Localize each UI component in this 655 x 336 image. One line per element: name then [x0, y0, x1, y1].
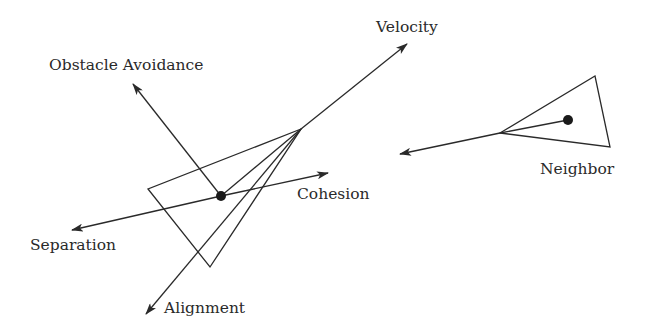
boid-inner-line — [221, 129, 301, 196]
alignment-label: Alignment — [164, 301, 245, 317]
separation-arrow — [72, 196, 221, 230]
neighbor-label: Neighbor — [540, 162, 614, 178]
velocity-label: Velocity — [376, 20, 438, 36]
velocity-arrow — [301, 44, 407, 129]
neighbor-body-shape — [500, 76, 610, 147]
obstacle-avoidance-label: Obstacle Avoidance — [49, 58, 203, 74]
boids-steering-diagram: Velocity Obstacle Avoidance Cohesion Sep… — [0, 0, 655, 336]
separation-label: Separation — [30, 238, 116, 254]
alignment-arrow — [146, 129, 301, 314]
neighbor-heading-arrow — [400, 133, 500, 154]
cohesion-label: Cohesion — [297, 187, 370, 203]
boid-center-dot — [216, 191, 226, 201]
obstacle-avoidance-arrow — [133, 84, 221, 196]
neighbor-center-dot — [563, 115, 573, 125]
